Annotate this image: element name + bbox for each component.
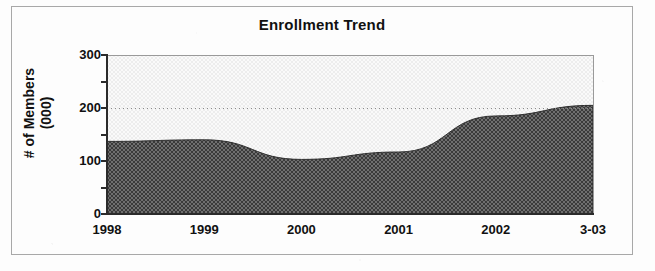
- area-path: [107, 105, 593, 214]
- x-axis-label-2001: 2001: [364, 222, 434, 237]
- x-axis-label-1998: 1998: [72, 222, 142, 237]
- y-axis-title-line1: # of Members: [21, 38, 38, 188]
- y-tick-50: [101, 187, 107, 189]
- y-tick-250: [101, 81, 107, 83]
- x-axis-label-3-03: 3-03: [558, 222, 628, 237]
- y-axis-label-0: 0: [61, 208, 101, 220]
- y-axis-title-line2: (000): [38, 38, 55, 188]
- y-tick-200: [101, 107, 107, 109]
- x-axis-line: [106, 213, 594, 215]
- y-tick-100: [101, 160, 107, 162]
- gridline-200: [107, 108, 594, 109]
- y-tick-300: [101, 54, 107, 56]
- y-axis-label-100: 100: [61, 155, 101, 167]
- x-axis-label-2002: 2002: [461, 222, 531, 237]
- y-tick-0: [101, 213, 107, 215]
- area-series: [107, 55, 593, 214]
- chart-title: Enrollment Trend: [11, 16, 633, 33]
- x-axis-label-2000: 2000: [266, 222, 336, 237]
- y-tick-150: [101, 134, 107, 136]
- y-axis-title: # of Members (000): [21, 38, 55, 188]
- plot-area: [107, 55, 593, 214]
- y-axis-label-300: 300: [61, 49, 101, 61]
- enrollment-trend-figure: Enrollment Trend # of Members (000) 3002…: [0, 0, 655, 271]
- x-axis-label-1999: 1999: [169, 222, 239, 237]
- y-axis-label-200: 200: [61, 102, 101, 114]
